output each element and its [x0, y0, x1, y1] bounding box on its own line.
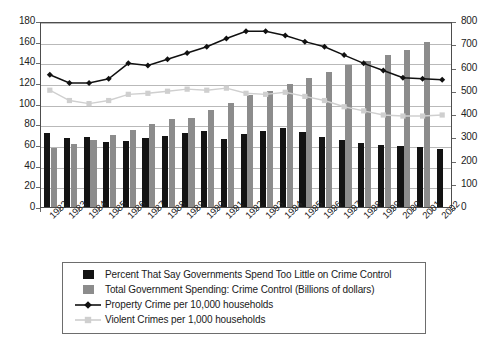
marker-property-crime-1989 [184, 50, 190, 56]
marker-violent-crime-1995 [302, 94, 307, 99]
marker-violent-crime-1986 [126, 92, 131, 97]
legend-item-0: Percent That Say Governments Spend Too L… [71, 267, 417, 282]
marker-violent-crime-1997 [341, 104, 346, 109]
marker-violent-crime-1987 [145, 91, 150, 96]
legend-key-3 [71, 313, 105, 326]
legend-label-0: Percent That Say Governments Spend Too L… [105, 269, 391, 280]
marker-violent-crime-2002 [440, 112, 445, 117]
marker-violent-crime-1992 [243, 91, 248, 96]
marker-violent-crime-1989 [185, 87, 190, 92]
marker-violent-crime-1993 [263, 92, 268, 97]
marker-violent-crime-1994 [283, 90, 288, 95]
marker-property-crime-1988 [165, 56, 171, 62]
square-swatch-icon [83, 270, 94, 279]
marker-violent-crime-1996 [322, 98, 327, 103]
legend-label-3: Violent Crimes per 1,000 households [105, 314, 265, 325]
square-swatch-icon [83, 285, 94, 294]
legend-item-2: Property Crime per 10,000 households [71, 297, 417, 312]
legend-label-1: Total Government Spending: Crime Control… [105, 284, 374, 295]
marker-property-crime-2001 [420, 76, 426, 82]
line-marker-square-icon [73, 314, 103, 326]
marker-property-crime-1994 [282, 32, 288, 38]
marker-violent-crime-1991 [224, 86, 229, 91]
marker-violent-crime-1988 [165, 89, 170, 94]
marker-violent-crime-1983 [67, 98, 72, 103]
marker-property-crime-2000 [400, 75, 406, 81]
legend-key-1 [71, 283, 105, 296]
marker-property-crime-1998 [361, 60, 367, 66]
marker-property-crime-1996 [321, 44, 327, 50]
marker-property-crime-1993 [263, 28, 269, 34]
legend-item-1: Total Government Spending: Crime Control… [71, 282, 417, 297]
marker-violent-crime-1985 [106, 98, 111, 103]
legend-label-2: Property Crime per 10,000 households [105, 299, 273, 310]
crime-control-chart: 0204060801001201401601800100200300400500… [0, 0, 502, 343]
marker-property-crime-1983 [66, 80, 72, 86]
legend-key-0 [71, 268, 105, 281]
marker-property-crime-1982 [47, 72, 53, 78]
marker-violent-crime-1999 [381, 112, 386, 117]
marker-property-crime-1992 [243, 28, 249, 34]
marker-violent-crime-1982 [47, 88, 52, 93]
marker-property-crime-1999 [380, 68, 386, 74]
marker-violent-crime-1990 [204, 88, 209, 93]
marker-property-crime-1987 [145, 62, 151, 68]
marker-property-crime-1997 [341, 52, 347, 58]
chart-legend: Percent That Say Governments Spend Too L… [62, 262, 426, 334]
marker-property-crime-1995 [302, 39, 308, 45]
marker-violent-crime-1984 [86, 101, 91, 106]
legend-item-3: Violent Crimes per 1,000 households [71, 312, 417, 327]
marker-violent-crime-2001 [420, 113, 425, 118]
line-marker-diamond-icon [73, 299, 103, 311]
marker-property-crime-1990 [204, 44, 210, 50]
marker-property-crime-1991 [223, 36, 229, 42]
marker-violent-crime-2000 [400, 113, 405, 118]
marker-property-crime-1984 [86, 80, 92, 86]
legend-key-2 [71, 298, 105, 311]
marker-property-crime-2002 [439, 77, 445, 83]
marker-violent-crime-1998 [361, 108, 366, 113]
line-path-property-crime [50, 31, 442, 83]
